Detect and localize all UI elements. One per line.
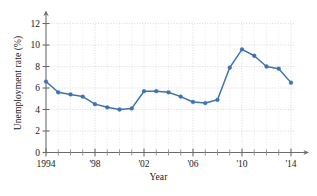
unemployment-rate-line-chart: 024681012 1994'98'02'06'10'14 Unemployme… [0, 0, 317, 196]
data-point-marker [289, 81, 293, 85]
data-point-marker [167, 90, 171, 94]
y-tick-label: 12 [31, 19, 41, 29]
y-tick-label: 4 [35, 105, 40, 115]
chart-plot-area: 024681012 1994'98'02'06'10'14 [0, 0, 317, 196]
grid-horizontal-lines [46, 24, 295, 132]
data-point-marker [154, 89, 158, 93]
grid-minor-vertical-lines [58, 22, 279, 153]
y-tick-label: 6 [35, 83, 40, 93]
data-point-marker [203, 101, 207, 105]
x-tick-label: '14 [285, 159, 296, 169]
y-tick-label: 8 [35, 62, 40, 72]
data-point-marker [142, 89, 146, 93]
data-point-marker [265, 65, 269, 69]
grid-major-vertical-lines [95, 22, 291, 153]
x-tick-label: '10 [236, 159, 247, 169]
data-point-marker [44, 80, 48, 84]
data-point-marker [216, 98, 220, 102]
data-point-marker [118, 108, 122, 112]
data-point-marker [240, 47, 244, 51]
data-point-marker [93, 102, 97, 106]
data-point-marker [191, 100, 195, 104]
data-point-marker [69, 93, 73, 97]
data-point-marker [277, 67, 281, 71]
data-point-marker [228, 66, 232, 70]
x-tick-label: '06 [187, 159, 198, 169]
data-series-unemployment-rate [44, 47, 293, 111]
x-axis: 1994'98'02'06'10'14 [37, 149, 310, 169]
y-tick-label: 10 [31, 40, 41, 50]
data-point-marker [56, 90, 60, 94]
y-axis: 024681012 [31, 11, 50, 158]
x-axis-title: Year [0, 172, 317, 182]
data-point-marker [130, 107, 134, 111]
data-point-marker [179, 95, 183, 99]
x-tick-label: 1994 [37, 159, 56, 169]
x-tick-label: '98 [89, 159, 100, 169]
data-point-marker [252, 54, 256, 58]
x-tick-label: '02 [138, 159, 149, 169]
data-point-marker [81, 95, 85, 99]
y-tick-label: 2 [35, 126, 40, 136]
y-axis-title: Unemployment rate (%) [13, 13, 23, 153]
data-point-marker [105, 105, 109, 109]
y-tick-label: 0 [35, 148, 40, 158]
